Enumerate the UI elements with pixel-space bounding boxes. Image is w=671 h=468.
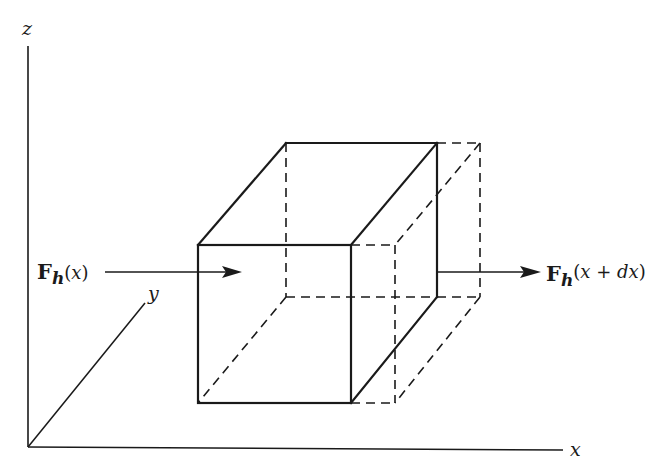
x-axis <box>28 447 563 450</box>
inflow-arrow <box>105 266 242 278</box>
control-volume-diagram: z y x Fh(x) <box>0 0 671 468</box>
top-left-edge <box>198 143 286 245</box>
outflow-label: Fh(x + dx) <box>546 261 646 290</box>
y-axis-label: y <box>147 282 159 304</box>
x-axis-label: x <box>570 438 581 460</box>
inflow-label: Fh(x) <box>37 259 89 288</box>
outflow-arrow <box>436 266 541 278</box>
front-face <box>198 245 351 403</box>
z-axis-label: z <box>21 17 33 39</box>
y-axis <box>28 303 145 447</box>
coordinate-axes: z y x <box>21 17 581 460</box>
top-right-edge <box>351 143 437 245</box>
bottom-right-edge <box>351 297 437 403</box>
